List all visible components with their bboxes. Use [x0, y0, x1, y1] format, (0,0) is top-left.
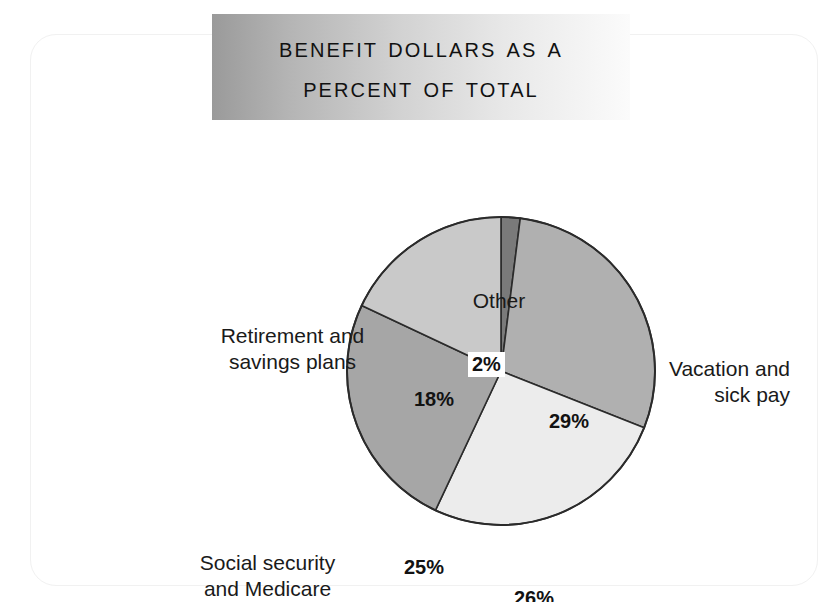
slice-label-vacation-and-sick-pay: Vacation and sick pay: [620, 356, 790, 408]
chart-title-line-1: Benefit Dollars as a: [279, 27, 563, 67]
slice-value-retirement-and-savings-plans: 18%: [414, 388, 454, 411]
chart-title-line-2: Percent of Total: [303, 67, 539, 107]
slice-label-other: Other: [424, 288, 574, 314]
slice-value-medical: 26%: [514, 587, 554, 602]
chart-title-banner: Benefit Dollars as a Percent of Total: [212, 14, 630, 120]
pie-chart-figure: Other Retirement and savings plans Vacat…: [0, 120, 825, 602]
slice-label-social-security-and-medicare: Social security and Medicare: [165, 550, 370, 602]
slice-value-social-security-and-medicare: 25%: [404, 556, 444, 579]
slice-label-retirement-and-savings-plans: Retirement and savings plans: [195, 323, 390, 375]
slice-value-other: 2%: [468, 352, 505, 377]
slice-value-vacation-and-sick-pay: 29%: [549, 410, 589, 433]
